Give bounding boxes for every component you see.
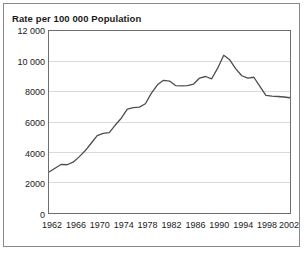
y-tick-label: 10 000 (17, 57, 45, 67)
plot-wrapper: 12 000 10 000 8000 6000 4000 2000 0 1962 (4, 4, 301, 248)
data-series-line (49, 55, 290, 172)
gridlines (49, 61, 290, 182)
y-tick-label: 12 000 (17, 26, 45, 36)
x-tick-label: 1978 (138, 220, 158, 230)
x-tick-label: 1994 (233, 220, 253, 230)
x-tick-label: 1966 (66, 220, 86, 230)
y-tick-label: 8000 (25, 87, 45, 97)
x-tick-label: 1970 (90, 220, 110, 230)
x-tick-label: 1986 (185, 220, 205, 230)
y-axis-tick-labels: 12 000 10 000 8000 6000 4000 2000 0 (4, 4, 45, 248)
chart-canvas (49, 31, 290, 213)
y-tick-label: 4000 (25, 149, 45, 159)
x-tick-label: 2002 (279, 220, 299, 230)
y-tick-label: 0 (40, 210, 45, 220)
x-tick-label: 1962 (42, 220, 62, 230)
y-tick-label: 2000 (25, 179, 45, 189)
x-tick-label: 1998 (257, 220, 277, 230)
x-tick-label: 1982 (161, 220, 181, 230)
x-tick-label: 1974 (114, 220, 134, 230)
x-tick-label: 1990 (209, 220, 229, 230)
chart-figure: Rate per 100 000 Population 12 000 10 00… (3, 3, 300, 247)
plot-area (48, 30, 291, 214)
y-tick-label: 6000 (25, 118, 45, 128)
